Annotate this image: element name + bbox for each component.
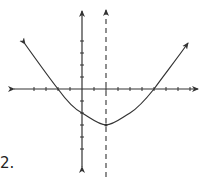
parabola-graph: [0, 0, 204, 178]
vertex-point: [104, 123, 107, 126]
problem-number: 2.: [0, 155, 14, 171]
x-axis: [14, 87, 198, 91]
